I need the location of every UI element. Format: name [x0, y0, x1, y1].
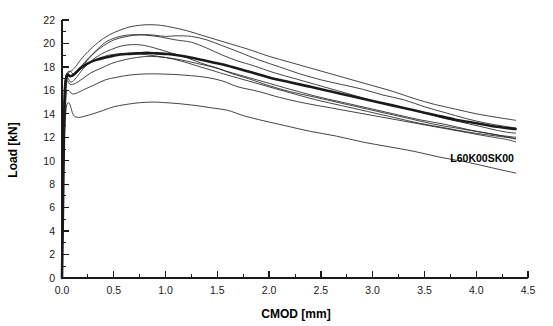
y-tick-label: 2: [49, 248, 55, 260]
y-tick-label: 6: [49, 201, 55, 213]
y-tick-label: 0: [49, 272, 55, 284]
x-axis-title: CMOD [mm]: [261, 307, 330, 321]
y-tick-label: 4: [49, 225, 55, 237]
y-tick-label: 20: [43, 37, 55, 49]
y-tick-label: 22: [43, 14, 55, 26]
chart-container: 0.00.51.01.52.02.53.03.54.04.50246810121…: [0, 0, 553, 326]
x-tick-label: 4.0: [469, 284, 484, 296]
x-tick-label: 0.0: [55, 284, 70, 296]
y-tick-label: 14: [43, 108, 55, 120]
series-label-annotation: L60K00SK00: [450, 152, 514, 164]
x-tick-label: 0.5: [106, 284, 121, 296]
series-annotations: L60K00SK00: [450, 152, 514, 164]
y-tick-label: 8: [49, 178, 55, 190]
load-cmod-chart: 0.00.51.01.52.02.53.03.54.04.50246810121…: [0, 0, 553, 326]
y-tick-label: 16: [43, 84, 55, 96]
y-tick-label: 18: [43, 61, 55, 73]
x-tick-label: 2.0: [262, 284, 277, 296]
x-tick-label: 2.5: [314, 284, 329, 296]
y-tick-label: 12: [43, 131, 55, 143]
x-tick-label: 3.0: [365, 284, 380, 296]
x-tick-label: 4.5: [521, 284, 536, 296]
y-tick-label: 10: [43, 155, 55, 167]
x-tick-label: 1.0: [158, 284, 173, 296]
x-tick-label: 3.5: [417, 284, 432, 296]
x-tick-label: 1.5: [210, 284, 225, 296]
y-axis-title: Load [kN]: [6, 122, 20, 177]
